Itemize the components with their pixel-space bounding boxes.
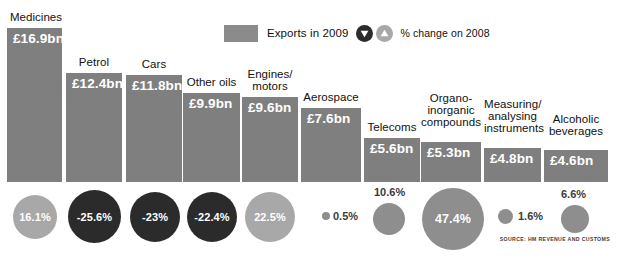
infographic-chart: Exports in 2009 % change on 2008 Medicin… [0,0,617,257]
legend-exports-label: Exports in 2009 [267,27,348,39]
bar-aerospace: £7.6bn [301,108,361,182]
bar-value-cars: £11.8bn [126,78,182,93]
bar-value-alcoholic-beverages: £4.6bn [544,153,608,168]
bar-label-engines-motors: Engines/ motors [242,68,298,92]
bar-label-aerospace: Aerospace [301,91,361,103]
change-circle-organo-inorganic-compounds: 47.4% [422,188,484,250]
change-circle-aerospace [322,212,330,220]
bar-label-organo-inorganic-compounds: Organo- inorganic compounds [421,92,481,129]
bar-label-medicines: Medicines [7,11,65,23]
chart-legend: Exports in 2009 % change on 2008 [224,23,490,43]
bar-telecoms: £5.6bn [364,138,420,182]
change-value-cars: -23% [142,211,168,223]
bar-label-alcoholic-beverages: Alcoholic beverages [544,113,608,137]
change-circle-cars: -23% [130,192,180,242]
bar-value-medicines: £16.9bn [7,31,62,46]
change-value-medicines: 16.1% [19,211,51,223]
change-value-engines-motors: 22.5% [254,211,286,223]
change-value-organo-inorganic-compounds: 47.4% [435,212,471,226]
bar-label-cars: Cars [126,58,182,70]
bar-value-aerospace: £7.6bn [301,111,361,126]
triangle-down-icon [356,25,373,42]
bar-engines-motors: £9.6bn [242,97,298,182]
bar-medicines: £16.9bn [7,28,62,182]
change-value-telecoms: 10.6% [374,186,405,198]
change-circle-petrol: -25.6% [68,190,121,243]
bar-label-other-oils: Other oils [183,76,240,88]
change-circle-medicines: 16.1% [13,195,57,239]
bar-cars: £11.8bn [126,75,182,182]
bar-value-petrol: £12.4bn [66,76,122,91]
bar-other-oils: £9.9bn [183,93,240,182]
bar-alcoholic-beverages: £4.6bn [544,150,608,182]
change-circle-engines-motors: 22.5% [245,192,295,242]
bar-petrol: £12.4bn [66,73,122,182]
bar-value-other-oils: £9.9bn [183,96,240,111]
bar-value-engines-motors: £9.6bn [242,100,298,115]
change-circle-other-oils: -22.4% [187,192,237,242]
change-value-petrol: -25.6% [77,211,112,223]
change-circle-telecoms [373,203,405,235]
bar-label-petrol: Petrol [66,56,122,68]
bar-value-telecoms: £5.6bn [364,141,420,156]
bar-organo-inorganic-compounds: £5.3bn [421,142,481,182]
change-value-aerospace: 0.5% [333,210,358,222]
change-value-measuring-analysing-instruments: 1.6% [518,210,543,222]
change-value-other-oils: -22.4% [194,211,229,223]
legend-change-icons [356,25,393,42]
source-credit: SOURCE: HM REVENUE AND CUSTOMS [500,236,610,242]
bar-label-measuring-analysing-instruments: Measuring/ analysing instruments [484,98,541,135]
legend-exports-swatch [224,25,258,42]
bar-value-measuring-analysing-instruments: £4.8bn [484,151,541,166]
change-circle-alcoholic-beverages [561,205,589,233]
bar-label-telecoms: Telecoms [364,121,420,133]
bar-measuring-analysing-instruments: £4.8bn [484,148,541,182]
triangle-up-icon [376,25,393,42]
change-value-alcoholic-beverages: 6.6% [561,188,586,200]
change-circle-measuring-analysing-instruments [498,209,513,224]
legend-change-label: % change on 2008 [400,27,489,39]
bar-value-organo-inorganic-compounds: £5.3bn [421,145,481,160]
